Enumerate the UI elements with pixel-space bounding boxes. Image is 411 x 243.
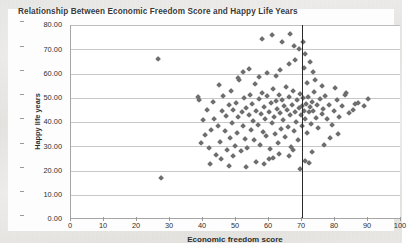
data-point xyxy=(224,147,230,153)
x-axis: 0102030405060708090100 xyxy=(70,221,400,233)
data-point xyxy=(287,31,293,37)
y-tick-mark-60 xyxy=(20,70,24,71)
x-tick-label-0: 0 xyxy=(55,221,85,231)
data-point xyxy=(226,102,232,108)
data-point xyxy=(335,131,341,137)
y-tick-label-20: 20.00 xyxy=(24,167,62,174)
gridline-y-50 xyxy=(71,98,400,99)
data-point xyxy=(332,86,338,92)
x-tick-mark-90 xyxy=(367,217,368,221)
data-point xyxy=(261,104,267,110)
y-tick-mark-30 xyxy=(20,143,24,144)
y-tick-mark-70 xyxy=(20,46,24,47)
data-point xyxy=(327,136,333,142)
data-point xyxy=(227,135,233,141)
data-point xyxy=(261,161,267,167)
data-point xyxy=(235,114,241,120)
data-point xyxy=(310,108,316,114)
data-point xyxy=(239,109,245,115)
data-point xyxy=(365,96,371,102)
data-point xyxy=(326,102,332,108)
x-tick-mark-0 xyxy=(70,217,71,221)
data-point xyxy=(331,108,337,114)
data-point xyxy=(264,70,270,76)
data-point xyxy=(228,88,234,94)
y-tick-mark-50 xyxy=(20,94,24,95)
x-tick-label-50: 50 xyxy=(220,221,250,231)
data-point xyxy=(319,111,325,117)
x-tick-label-40: 40 xyxy=(187,221,217,231)
chart-title: Relationship Between Economic Freedom Sc… xyxy=(18,7,410,16)
data-point xyxy=(314,103,320,109)
data-point xyxy=(350,107,356,113)
data-point xyxy=(230,107,236,113)
gridline-y-70 xyxy=(71,49,400,50)
x-tick-label-90: 90 xyxy=(352,221,382,231)
data-point xyxy=(276,151,282,157)
y-tick-mark-20 xyxy=(20,167,24,168)
data-point xyxy=(275,140,281,146)
data-point xyxy=(286,153,292,159)
data-point xyxy=(266,109,272,115)
y-tick-label-60: 60.00 xyxy=(24,70,62,77)
x-tick-label-20: 20 xyxy=(121,221,151,231)
data-point xyxy=(339,103,345,109)
data-point xyxy=(304,80,310,86)
data-point xyxy=(238,149,244,155)
chart-canvas: Relationship Between Economic Freedom Sc… xyxy=(8,9,394,231)
data-point xyxy=(290,147,296,153)
data-point xyxy=(283,85,289,91)
data-point xyxy=(222,128,228,134)
data-point xyxy=(286,95,292,101)
data-point xyxy=(223,113,229,119)
data-point xyxy=(312,78,318,84)
x-tick-mark-20 xyxy=(136,217,137,221)
data-point xyxy=(289,102,295,108)
data-point xyxy=(320,106,326,112)
data-point xyxy=(282,134,288,140)
data-point xyxy=(204,107,210,113)
data-point xyxy=(295,137,301,143)
plot-area xyxy=(70,25,400,219)
data-point xyxy=(278,126,284,132)
y-tick-label-50: 50.00 xyxy=(24,94,62,101)
data-point xyxy=(312,89,318,95)
x-tick-label-30: 30 xyxy=(154,221,184,231)
data-point xyxy=(296,46,302,52)
data-point xyxy=(233,101,239,107)
x-axis-title: Economic freedom score xyxy=(70,235,400,243)
data-point xyxy=(259,36,265,42)
x-tick-mark-60 xyxy=(268,217,269,221)
data-point xyxy=(270,86,276,92)
x-tick-mark-50 xyxy=(235,217,236,221)
data-point xyxy=(329,122,335,128)
x-tick-label-70: 70 xyxy=(286,221,316,231)
data-point xyxy=(286,61,292,67)
x-tick-label-80: 80 xyxy=(319,221,349,231)
data-point xyxy=(258,111,264,117)
data-point xyxy=(230,153,236,159)
x-tick-mark-70 xyxy=(301,217,302,221)
gridline-y-40 xyxy=(71,122,400,123)
data-point xyxy=(217,82,223,88)
data-point xyxy=(267,146,273,152)
data-point xyxy=(309,150,315,156)
data-point xyxy=(207,161,213,167)
x-tick-mark-80 xyxy=(334,217,335,221)
y-tick-mark-0 xyxy=(20,215,24,216)
data-point xyxy=(252,137,258,143)
data-point xyxy=(344,90,350,96)
data-point xyxy=(226,163,232,169)
data-point xyxy=(256,96,262,102)
data-point xyxy=(292,57,298,63)
y-tick-label-40: 40.00 xyxy=(24,118,62,125)
x-tick-mark-40 xyxy=(202,217,203,221)
data-point xyxy=(313,115,319,121)
y-tick-mark-80 xyxy=(20,21,24,22)
gridline-y-60 xyxy=(71,74,400,75)
x-tick-label-100: 100 xyxy=(385,221,411,231)
data-point xyxy=(256,74,262,80)
data-point xyxy=(234,130,240,136)
data-point xyxy=(285,124,291,130)
data-point xyxy=(241,95,247,101)
